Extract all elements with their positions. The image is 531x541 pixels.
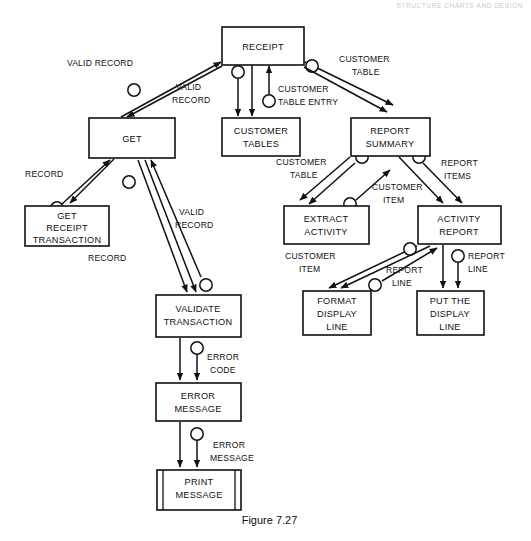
couple-label-error-message-2: MESSAGE bbox=[210, 453, 254, 463]
module-label-line2: ACTIVITY bbox=[304, 227, 347, 237]
couple-c2-valid-record-receipt-to-get bbox=[127, 66, 222, 117]
couple-c16-error-message bbox=[180, 422, 203, 467]
couple-label-customer-table-entry-2: TABLE ENTRY bbox=[278, 97, 338, 107]
module-label-line2: TRANSACTION bbox=[164, 317, 233, 327]
figure-caption: Figure 7.27 bbox=[0, 514, 531, 526]
module-label-line1: GET bbox=[57, 211, 77, 221]
couple-circle bbox=[128, 84, 140, 96]
module-label-line1: PRINT bbox=[185, 477, 214, 487]
couple-circle bbox=[369, 279, 381, 291]
module-get[interactable]: GET bbox=[89, 118, 175, 158]
couple-circle bbox=[191, 342, 203, 354]
couple-circle bbox=[232, 66, 244, 78]
couple-label-valid-record-top: VALID RECORD bbox=[67, 58, 133, 68]
module-label-line1: VALIDATE bbox=[175, 304, 220, 314]
couple-label-error-code-1: ERROR bbox=[207, 352, 239, 362]
couple-label-valid-record-left-2: RECORD bbox=[172, 95, 210, 105]
module-put-the-display-line[interactable]: PUT THE DISPLAY LINE bbox=[417, 291, 484, 335]
module-report-summary[interactable]: REPORT SUMMARY bbox=[351, 118, 430, 156]
module-activity-report[interactable]: ACTIVITY REPORT bbox=[418, 206, 501, 244]
couple-label-report-items-1: REPORT bbox=[441, 158, 478, 168]
couple-label-customer-item-1: CUSTOMER bbox=[372, 182, 423, 192]
couple-label-report-line-right-2: LINE bbox=[468, 264, 488, 274]
module-label: GET bbox=[122, 134, 142, 144]
module-label-line1: EXTRACT bbox=[304, 214, 349, 224]
module-label-line1: ACTIVITY bbox=[437, 214, 480, 224]
couple-label-customer-table-top-2: TABLE bbox=[352, 67, 380, 77]
couple-c3-valid-record-receipt-to-customer-tables bbox=[232, 65, 252, 116]
module-label-line2: DISPLAY bbox=[430, 309, 470, 319]
structure-chart-canvas: RECEIPT GET CUSTOMER TABLES REPORT SUMMA… bbox=[0, 0, 531, 541]
couple-circle bbox=[306, 60, 318, 72]
couple-c14-report-line-activity-report-to-put-display bbox=[443, 245, 464, 288]
module-label-line3: LINE bbox=[326, 322, 347, 332]
module-label-line1: FORMAT bbox=[317, 296, 357, 306]
module-label-line2: SUMMARY bbox=[366, 139, 415, 149]
couple-label-report-line-2: LINE bbox=[392, 278, 412, 288]
couple-circle bbox=[200, 279, 212, 291]
couple-label-record-mid: RECORD bbox=[88, 253, 126, 263]
module-label-line3: TRANSACTION bbox=[33, 235, 102, 245]
couple-label-report-line-1: REPORT bbox=[386, 265, 423, 275]
module-label-line2: MESSAGE bbox=[174, 404, 221, 414]
couple-c15-error-code bbox=[180, 338, 203, 380]
module-label-line2: RECEIPT bbox=[46, 223, 88, 233]
couple-c4-customer-table-entry bbox=[263, 66, 275, 107]
module-label-line1: CUSTOMER bbox=[234, 126, 289, 136]
module-customer-tables[interactable]: CUSTOMER TABLES bbox=[222, 118, 300, 156]
module-label-line2: MESSAGE bbox=[175, 490, 222, 500]
couple-label-customer-table-1: CUSTOMER bbox=[276, 157, 327, 167]
couple-label-customer-item-low-1: CUSTOMER bbox=[285, 251, 336, 261]
module-label-line2: TABLES bbox=[243, 139, 279, 149]
couple-c1-valid-record-get-to-receipt bbox=[121, 62, 221, 117]
couple-label-error-message-1: ERROR bbox=[213, 440, 245, 450]
couple-label-customer-table-top-1: CUSTOMER bbox=[339, 54, 390, 64]
module-label-line2: DISPLAY bbox=[317, 309, 357, 319]
couple-label-valid-record-mid-1: VALID bbox=[179, 207, 204, 217]
module-error-message[interactable]: ERROR MESSAGE bbox=[156, 383, 241, 421]
structure-chart-figure: STRUCTURE CHARTS AND DESIGN bbox=[0, 0, 531, 541]
module-receipt[interactable]: RECEIPT bbox=[222, 27, 304, 65]
couple-circle bbox=[123, 176, 135, 188]
module-label: RECEIPT bbox=[242, 42, 284, 52]
module-validate-transaction[interactable]: VALIDATE TRANSACTION bbox=[156, 295, 241, 337]
couple-label-valid-record-left-1: VALID bbox=[176, 82, 201, 92]
couple-label-customer-item-low-2: ITEM bbox=[299, 264, 320, 274]
couple-circle bbox=[191, 428, 203, 440]
module-get-receipt-transaction[interactable]: GET RECEIPT TRANSACTION bbox=[25, 206, 109, 246]
couple-label-valid-record-mid-2: RECORD bbox=[175, 220, 213, 230]
module-extract-activity[interactable]: EXTRACT ACTIVITY bbox=[284, 206, 369, 244]
couple-label-record-left: RECORD bbox=[25, 169, 63, 179]
couple-label-customer-table-2: TABLE bbox=[290, 170, 318, 180]
couple-label-error-code-2: CODE bbox=[210, 365, 236, 375]
couple-label-report-items-2: ITEMS bbox=[444, 171, 471, 181]
figure-caption-text: Figure 7.27 bbox=[242, 514, 298, 526]
couple-label-customer-table-entry-1: CUSTOMER bbox=[278, 84, 329, 94]
module-label-line1: ERROR bbox=[181, 391, 216, 401]
couple-circle bbox=[452, 250, 464, 262]
module-label-line3: LINE bbox=[439, 322, 460, 332]
module-print-message[interactable]: PRINT MESSAGE bbox=[157, 470, 241, 510]
couple-label-report-line-right-1: REPORT bbox=[468, 251, 505, 261]
module-label-line1: PUT THE bbox=[430, 296, 471, 306]
module-label-line1: REPORT bbox=[370, 126, 410, 136]
couple-circle bbox=[263, 95, 275, 107]
module-format-display-line[interactable]: FORMAT DISPLAY LINE bbox=[303, 291, 371, 335]
couple-label-customer-item-2: ITEM bbox=[383, 195, 404, 205]
module-label-line2: REPORT bbox=[439, 227, 479, 237]
